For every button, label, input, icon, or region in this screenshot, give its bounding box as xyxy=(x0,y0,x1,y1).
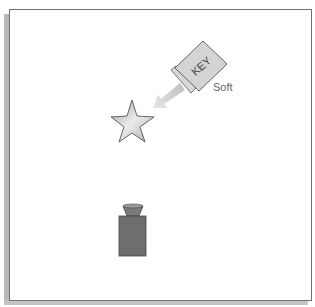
subject-star-icon xyxy=(111,100,154,142)
light-quality-label: Soft xyxy=(213,81,233,93)
camera-icon xyxy=(119,204,146,256)
lighting-diagram: KEY xyxy=(0,0,315,307)
light-direction-arrow-icon xyxy=(153,83,185,108)
